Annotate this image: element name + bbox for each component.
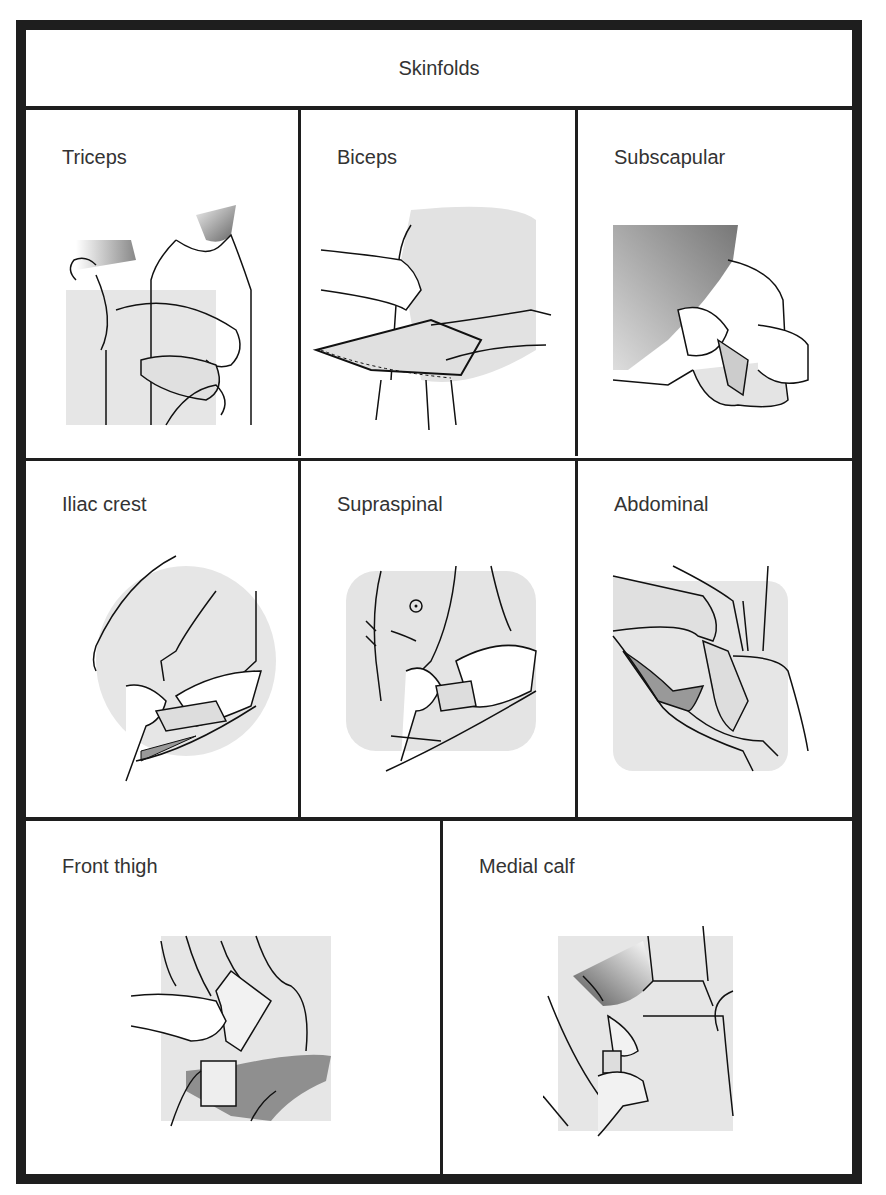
panel-front-thigh: Front thigh: [26, 821, 440, 1178]
panel-supraspinal: Supraspinal: [298, 461, 575, 818]
triceps-skinfold-illustration-icon: [56, 200, 276, 430]
panel-subscapular: Subscapular: [575, 110, 852, 456]
panel-biceps: Biceps: [298, 110, 575, 456]
row-3: Front thigh Medial calf: [26, 817, 852, 1178]
biceps-skinfold-illustration-icon: [311, 200, 561, 430]
panel-label: Front thigh: [62, 855, 158, 878]
row-1: Triceps: [26, 110, 852, 456]
panel-label: Triceps: [62, 146, 127, 169]
subscapular-skinfold-illustration-icon: [608, 220, 828, 420]
skinfolds-chart-frame: Skinfolds Triceps: [16, 20, 862, 1184]
abdominal-skinfold-illustration-icon: [603, 561, 833, 791]
panel-label: Biceps: [337, 146, 397, 169]
panel-label: Iliac crest: [62, 493, 146, 516]
front-thigh-skinfold-illustration-icon: [131, 931, 341, 1131]
panel-label: Medial calf: [479, 855, 575, 878]
panel-iliac-crest: Iliac crest: [26, 461, 298, 818]
panel-label: Abdominal: [614, 493, 709, 516]
iliac-crest-skinfold-illustration-icon: [66, 551, 276, 791]
supraspinal-skinfold-illustration-icon: [331, 561, 541, 791]
row-2: Iliac crest Supraspinal: [26, 458, 852, 818]
panel-label: Supraspinal: [337, 493, 443, 516]
chart-title: Skinfolds: [26, 30, 852, 110]
medial-calf-skinfold-illustration-icon: [543, 921, 743, 1141]
panel-triceps: Triceps: [26, 110, 298, 456]
panel-abdominal: Abdominal: [575, 461, 852, 818]
panel-medial-calf: Medial calf: [440, 821, 852, 1178]
panel-label: Subscapular: [614, 146, 725, 169]
